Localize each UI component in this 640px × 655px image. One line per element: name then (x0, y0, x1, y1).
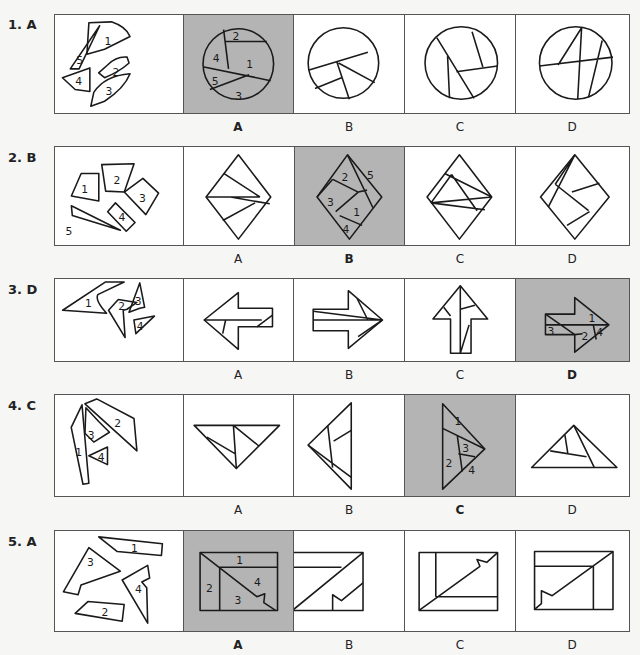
triangle-figure: 1 3 2 4 (405, 395, 516, 496)
question-4-option-a[interactable] (184, 395, 295, 496)
piece-label: 5 (211, 75, 218, 88)
question-4-option-c[interactable]: 1 3 2 4 (405, 395, 517, 496)
pieces-figure: 1 2 3 4 5 (55, 147, 183, 245)
option-label-a: A (183, 252, 293, 266)
question-2-pieces: 1 2 3 4 5 (55, 147, 184, 245)
triangle-figure (184, 395, 294, 496)
diamond-figure: 2 5 3 1 4 (295, 147, 405, 245)
piece-label: 1 (75, 446, 82, 459)
question-3-label: 3. D (8, 282, 37, 297)
question-3-option-c[interactable] (405, 279, 517, 361)
question-1-option-a[interactable]: 2 4 1 5 3 (184, 15, 295, 113)
piece-label: 1 (105, 35, 112, 48)
question-2-option-b[interactable]: 2 5 3 1 4 (295, 147, 406, 245)
question-4-row: 1 2 3 4 1 3 2 4 (54, 394, 630, 497)
diamond-figure (516, 147, 629, 245)
question-3-pieces: 1 2 3 4 (55, 279, 184, 361)
question-2-option-a[interactable] (184, 147, 295, 245)
question-5-option-d[interactable] (516, 531, 629, 631)
question-1-option-b[interactable] (294, 15, 405, 113)
question-3-option-a[interactable] (184, 279, 295, 361)
option-label-d: D (517, 368, 627, 382)
question-5-row: 1 3 4 2 1 4 2 3 (54, 530, 630, 632)
piece-label: 5 (76, 54, 83, 67)
piece-label: 2 (114, 417, 121, 430)
piece-label: 4 (98, 451, 105, 464)
piece-label: 2 (206, 582, 213, 595)
piece-label: 4 (597, 326, 604, 339)
piece-label: 3 (235, 90, 242, 103)
piece-label: 4 (137, 320, 144, 333)
circle-figure (516, 15, 629, 113)
option-label-a: A (183, 503, 293, 517)
question-3-option-b[interactable] (294, 279, 405, 361)
question-5-option-b[interactable] (294, 531, 405, 631)
pieces-figure: 5 1 2 4 3 (55, 15, 183, 113)
question-1-pieces: 5 1 2 4 3 (55, 15, 184, 113)
question-2-label: 2. B (8, 150, 36, 165)
piece-label: 3 (326, 196, 333, 209)
question-5-pieces: 1 3 4 2 (55, 531, 184, 631)
piece-label: 1 (454, 415, 461, 428)
circle-figure: 2 4 1 5 3 (184, 15, 294, 113)
pieces-figure: 1 2 3 4 (55, 395, 183, 496)
option-label-a: A (183, 120, 293, 134)
pieces-figure: 1 3 4 2 (55, 531, 183, 631)
piece-label: 4 (468, 464, 475, 477)
option-label-b: B (294, 638, 404, 652)
arrow-figure (184, 279, 294, 361)
triangle-figure (516, 395, 629, 496)
piece-label: 2 (582, 330, 589, 343)
piece-label: 3 (548, 325, 555, 338)
diamond-figure (184, 147, 294, 245)
circle-figure (294, 15, 404, 113)
option-label-d: D (517, 503, 627, 517)
question-4-pieces: 1 2 3 4 (55, 395, 184, 496)
question-5-option-a[interactable]: 1 4 2 3 (184, 531, 295, 631)
arrow-figure (294, 279, 404, 361)
pieces-figure: 1 2 3 4 (55, 279, 183, 361)
arrow-figure (405, 279, 516, 361)
question-1-option-d[interactable] (516, 15, 629, 113)
option-label-a: A (183, 638, 293, 652)
piece-label: 4 (342, 223, 349, 236)
option-label-c: C (405, 120, 515, 134)
piece-label: 3 (234, 594, 241, 607)
piece-label: 1 (131, 542, 138, 555)
option-label-c: C (405, 503, 515, 517)
option-label-b: B (294, 368, 404, 382)
question-4-option-d[interactable] (516, 395, 629, 496)
piece-label: 3 (88, 429, 95, 442)
question-2-option-d[interactable] (516, 147, 629, 245)
question-1-option-c[interactable] (405, 15, 517, 113)
piece-label: 2 (118, 300, 125, 313)
arrow-figure: 1 3 2 4 (516, 279, 629, 361)
question-1-row: 5 1 2 4 3 2 4 1 5 3 (54, 14, 630, 114)
piece-label: 2 (114, 174, 121, 187)
option-label-c: C (405, 368, 515, 382)
question-3-row: 1 2 3 4 1 3 2 4 (54, 278, 630, 362)
piece-label: 2 (112, 66, 119, 79)
question-3-option-d[interactable]: 1 3 2 4 (516, 279, 629, 361)
piece-label: 1 (589, 312, 596, 325)
piece-label: 1 (353, 206, 360, 219)
diamond-figure (405, 147, 515, 245)
piece-label: 4 (254, 576, 261, 589)
piece-label: 3 (462, 442, 469, 455)
question-5-option-c[interactable] (405, 531, 517, 631)
piece-label: 1 (85, 297, 92, 310)
piece-label: 3 (106, 85, 113, 98)
option-label-d: D (517, 638, 627, 652)
option-label-d: D (517, 252, 627, 266)
question-2-option-c[interactable] (405, 147, 516, 245)
piece-label: 3 (139, 192, 146, 205)
piece-label: 4 (212, 52, 219, 65)
piece-label: 4 (135, 583, 142, 596)
option-label-c: C (405, 638, 515, 652)
piece-label: 1 (81, 183, 88, 196)
question-5-label: 5. A (8, 534, 37, 549)
piece-label: 1 (236, 554, 243, 567)
question-4-option-b[interactable] (294, 395, 405, 496)
option-label-b: B (294, 120, 404, 134)
piece-label: 2 (445, 457, 452, 470)
